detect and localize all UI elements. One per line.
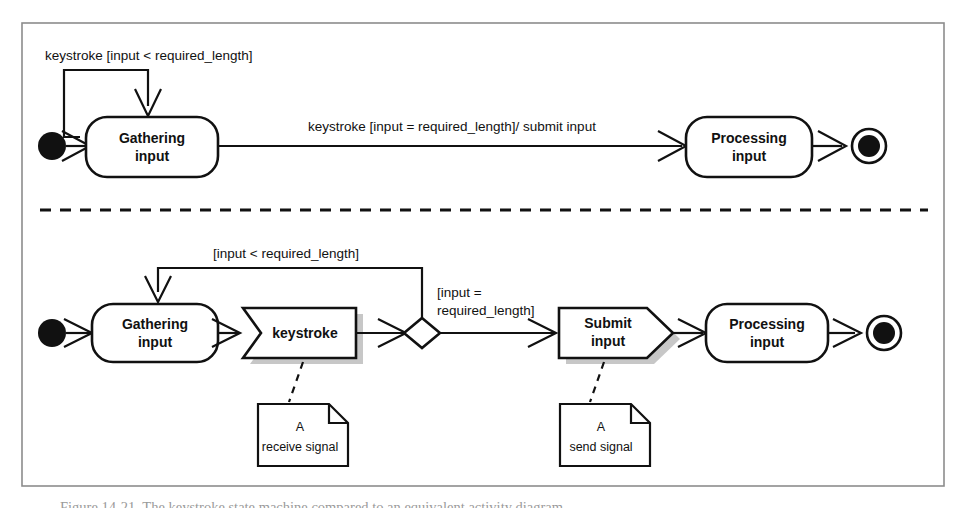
send-note-label-line1: A bbox=[597, 420, 606, 434]
bottom-signal-keystroke-label: keystroke bbox=[272, 325, 338, 341]
receive-note-label-line1: A bbox=[296, 420, 305, 434]
top-submit-transition-label: keystroke [input = required_length]/ sub… bbox=[308, 119, 596, 134]
bottom-loop-guard-label: [input < required_length] bbox=[213, 246, 359, 261]
top-state-gathering-label-line1: Gathering bbox=[119, 130, 185, 146]
top-state-gathering-label-line2: input bbox=[135, 148, 170, 164]
bottom-state-gathering-label-line1: Gathering bbox=[122, 316, 188, 332]
top-initial-state bbox=[38, 132, 66, 160]
bottom-branch-guard-label-line1: [input = bbox=[437, 285, 482, 300]
figure-caption: Figure 14-21. The keystroke state machin… bbox=[60, 492, 563, 508]
bottom-signal-submit-label-line2: input bbox=[591, 333, 626, 349]
bottom-signal-submit-label-line1: Submit bbox=[584, 315, 632, 331]
top-state-processing-label-line2: input bbox=[732, 148, 767, 164]
receive-note-link bbox=[289, 362, 303, 402]
send-note-link bbox=[590, 362, 604, 402]
top-final-state-core bbox=[858, 135, 880, 157]
receive-note-box[interactable] bbox=[258, 404, 348, 466]
bottom-decision-diamond[interactable] bbox=[404, 318, 440, 348]
bottom-state-processing-label-line2: input bbox=[750, 334, 785, 350]
bottom-branch-guard-label-line2: required_length] bbox=[437, 303, 535, 318]
bottom-initial-node bbox=[38, 319, 66, 347]
send-note-box[interactable] bbox=[560, 404, 650, 466]
figure-root: keystroke [input < required_length] Gath… bbox=[0, 0, 964, 508]
uml-diagram-canvas: keystroke [input < required_length] Gath… bbox=[0, 0, 964, 508]
bottom-state-processing-label-line1: Processing bbox=[729, 316, 804, 332]
bottom-final-node-core bbox=[873, 322, 895, 344]
send-note-label-line2: send signal bbox=[569, 440, 632, 454]
receive-note-label-line2: receive signal bbox=[262, 440, 338, 454]
top-self-transition-label: keystroke [input < required_length] bbox=[45, 48, 253, 63]
top-state-processing-label-line1: Processing bbox=[711, 130, 786, 146]
bottom-state-gathering-label-line2: input bbox=[138, 334, 173, 350]
